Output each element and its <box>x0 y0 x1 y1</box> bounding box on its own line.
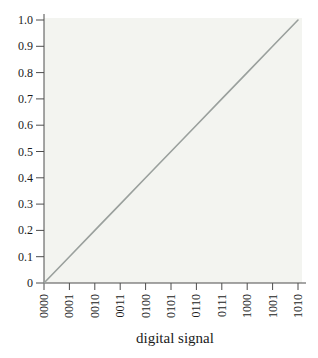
y-tick-label: 0 <box>27 276 33 290</box>
y-tick-label: 0.8 <box>18 66 33 80</box>
x-tick-label: 0000 <box>37 294 51 318</box>
x-axis-title: digital signal <box>44 330 306 347</box>
y-tick-label: 0.4 <box>18 171 33 185</box>
x-tick-label: 1010 <box>291 294 305 318</box>
x-tick-label: 1000 <box>240 294 254 318</box>
y-tick-label: 0.2 <box>18 223 33 237</box>
x-tick-label: 1001 <box>266 294 280 318</box>
x-tick-label: 0101 <box>164 294 178 318</box>
x-tick-label: 0010 <box>88 294 102 318</box>
y-tick-label: 0.1 <box>18 250 33 264</box>
y-tick-label: 0.3 <box>18 197 33 211</box>
x-tick-label: 0100 <box>139 294 153 318</box>
x-tick-label: 0110 <box>189 294 203 318</box>
x-tick-label: 0111 <box>215 294 229 317</box>
chart-svg: 00.10.20.30.40.50.60.70.80.91.0000000010… <box>0 0 318 358</box>
y-tick-label: 0.9 <box>18 39 33 53</box>
line-chart-figure: 00.10.20.30.40.50.60.70.80.91.0000000010… <box>0 0 318 358</box>
y-tick-label: 0.5 <box>18 145 33 159</box>
x-tick-label: 0001 <box>62 294 76 318</box>
y-tick-label: 1.0 <box>18 13 33 27</box>
y-tick-label: 0.7 <box>18 92 33 106</box>
y-tick-label: 0.6 <box>18 118 33 132</box>
x-tick-label: 0011 <box>113 294 127 318</box>
